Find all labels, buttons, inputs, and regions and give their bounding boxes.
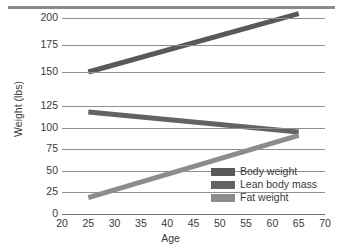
legend-item[interactable]: Fat weight (211, 191, 329, 204)
legend-swatch-icon (211, 168, 235, 176)
x-axis-label: Age (0, 232, 341, 244)
chart-figure: Weight (lbs) 0255075100125150175200 2025… (0, 0, 341, 251)
top-divider-rule (8, 6, 335, 9)
y-tick-label: 50 (18, 164, 58, 176)
x-tick-label: 45 (188, 217, 200, 229)
x-tick-label: 30 (109, 217, 121, 229)
legend-swatch-icon (211, 181, 235, 189)
series-line-lean-body-mass (88, 112, 298, 132)
y-tick-label: 175 (18, 38, 58, 50)
legend-item-label: Lean body mass (240, 179, 317, 190)
series-line-body-weight (88, 14, 298, 72)
x-tick-label: 25 (82, 217, 94, 229)
x-tick-label: 70 (319, 217, 331, 229)
y-tick-label: 125 (18, 99, 58, 111)
legend-item[interactable]: Lean body mass (211, 178, 329, 191)
gridline-y-200: 200 (62, 18, 325, 19)
x-tick-label: 50 (214, 217, 226, 229)
x-tick-label: 60 (267, 217, 279, 229)
y-tick-label: 150 (18, 65, 58, 77)
legend-item[interactable]: Body weight (211, 165, 329, 178)
gridline-y-75: 75 (62, 149, 325, 150)
legend-item-label: Fat weight (240, 192, 288, 203)
legend-swatch-icon (211, 194, 235, 202)
x-tick-label: 20 (56, 217, 68, 229)
gridline-y-150: 150 (62, 72, 325, 73)
y-tick-label: 100 (18, 121, 58, 133)
chart-legend: Body weightLean body massFat weight (211, 165, 329, 204)
gridline-y-0: 0 (62, 214, 325, 215)
x-tick-label: 65 (293, 217, 305, 229)
y-tick-label: 75 (18, 142, 58, 154)
legend-item-label: Body weight (240, 166, 297, 177)
x-tick-label: 35 (135, 217, 147, 229)
x-tick-label: 40 (161, 217, 173, 229)
gridline-y-100: 100 (62, 128, 325, 129)
y-tick-label: 25 (18, 185, 58, 197)
gridline-y-175: 175 (62, 45, 325, 46)
y-tick-label: 200 (18, 11, 58, 23)
x-axis-ticks: 2025303540455055606570 (62, 217, 325, 231)
y-tick-label: 0 (18, 207, 58, 219)
gridline-y-125: 125 (62, 106, 325, 107)
x-tick-label: 55 (240, 217, 252, 229)
